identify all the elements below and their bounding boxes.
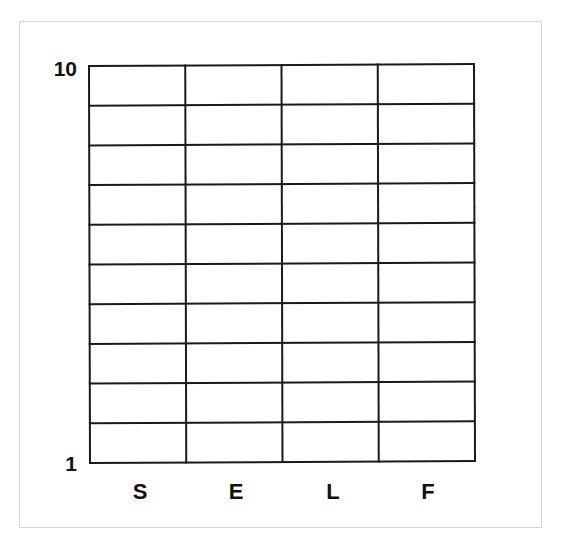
grid-border-vertical bbox=[474, 64, 475, 461]
grid-chart bbox=[0, 0, 563, 549]
y-axis-max-label: 10 bbox=[44, 58, 77, 79]
grid-column-line bbox=[185, 66, 186, 463]
x-axis-label-l: L bbox=[313, 481, 353, 503]
grid-column-line bbox=[282, 65, 283, 462]
grid-column-line bbox=[378, 65, 379, 462]
x-axis-label-f: F bbox=[408, 481, 448, 503]
x-axis-label-e: E bbox=[216, 481, 256, 503]
y-axis-min-label: 1 bbox=[44, 453, 77, 474]
grid-border-vertical bbox=[89, 66, 90, 463]
x-axis-label-s: S bbox=[120, 481, 160, 503]
